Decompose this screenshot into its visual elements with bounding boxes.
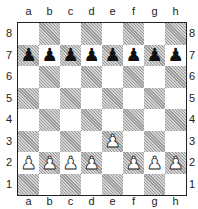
- square-h6[interactable]: [165, 66, 186, 88]
- black-pawn-icon[interactable]: ♟: [20, 46, 36, 64]
- square-d8[interactable]: [81, 23, 102, 45]
- square-f2[interactable]: ♟: [123, 152, 144, 174]
- black-pawn-icon[interactable]: ♟: [146, 46, 162, 64]
- rank-label-8: 8: [3, 23, 15, 45]
- square-g6[interactable]: [144, 66, 165, 88]
- square-b7[interactable]: ♟: [39, 45, 60, 67]
- file-label-a: a: [18, 5, 39, 17]
- square-b1[interactable]: [39, 174, 60, 196]
- square-a1[interactable]: [18, 174, 39, 196]
- square-d1[interactable]: [81, 174, 102, 196]
- square-c1[interactable]: [60, 174, 81, 196]
- square-a7[interactable]: ♟: [18, 45, 39, 67]
- white-pawn-icon[interactable]: ♟: [41, 154, 57, 172]
- square-g8[interactable]: [144, 23, 165, 45]
- rank-label-2: 2: [3, 152, 15, 174]
- black-pawn-icon[interactable]: ♟: [41, 46, 57, 64]
- square-g7[interactable]: ♟: [144, 45, 165, 67]
- square-b6[interactable]: [39, 66, 60, 88]
- square-b4[interactable]: [39, 109, 60, 131]
- square-g3[interactable]: [144, 131, 165, 153]
- square-e5[interactable]: [102, 88, 123, 110]
- square-b5[interactable]: [39, 88, 60, 110]
- square-h4[interactable]: [165, 109, 186, 131]
- file-label-e: e: [102, 5, 123, 17]
- square-f7[interactable]: ♟: [123, 45, 144, 67]
- square-b3[interactable]: [39, 131, 60, 153]
- square-b8[interactable]: [39, 23, 60, 45]
- rank-label-3: 3: [3, 131, 15, 153]
- square-g2[interactable]: ♟: [144, 152, 165, 174]
- square-d6[interactable]: [81, 66, 102, 88]
- rank-label-5: 5: [186, 88, 198, 110]
- square-g4[interactable]: [144, 109, 165, 131]
- black-pawn-icon[interactable]: ♟: [62, 46, 78, 64]
- white-pawn-icon[interactable]: ♟: [83, 154, 99, 172]
- file-label-g: g: [144, 195, 165, 207]
- square-c8[interactable]: [60, 23, 81, 45]
- white-pawn-icon[interactable]: ♟: [167, 154, 183, 172]
- square-h7[interactable]: ♟: [165, 45, 186, 67]
- square-c2[interactable]: ♟: [60, 152, 81, 174]
- square-e6[interactable]: [102, 66, 123, 88]
- file-label-a: a: [18, 195, 39, 207]
- square-d4[interactable]: [81, 109, 102, 131]
- square-f8[interactable]: [123, 23, 144, 45]
- square-a5[interactable]: [18, 88, 39, 110]
- rank-label-3: 3: [186, 131, 198, 153]
- file-label-f: f: [123, 5, 144, 17]
- square-e1[interactable]: [102, 174, 123, 196]
- rank-label-2: 2: [186, 152, 198, 174]
- chess-board: ♟♟♟♟♟♟♟♟♟♟♟♟♟♟♟♟: [17, 22, 187, 196]
- rank-label-6: 6: [186, 66, 198, 88]
- rank-label-5: 5: [3, 88, 15, 110]
- square-h3[interactable]: [165, 131, 186, 153]
- square-e8[interactable]: [102, 23, 123, 45]
- file-label-h: h: [165, 5, 186, 17]
- square-c4[interactable]: [60, 109, 81, 131]
- square-f1[interactable]: [123, 174, 144, 196]
- white-pawn-icon[interactable]: ♟: [146, 154, 162, 172]
- square-a4[interactable]: [18, 109, 39, 131]
- square-g5[interactable]: [144, 88, 165, 110]
- white-pawn-icon[interactable]: ♟: [20, 154, 36, 172]
- square-f5[interactable]: [123, 88, 144, 110]
- black-pawn-icon[interactable]: ♟: [83, 46, 99, 64]
- square-e3[interactable]: ♟: [102, 131, 123, 153]
- rank-label-1: 1: [3, 174, 15, 196]
- square-e7[interactable]: ♟: [102, 45, 123, 67]
- square-f3[interactable]: [123, 131, 144, 153]
- black-pawn-icon[interactable]: ♟: [125, 46, 141, 64]
- square-d2[interactable]: ♟: [81, 152, 102, 174]
- square-e2[interactable]: [102, 152, 123, 174]
- square-a6[interactable]: [18, 66, 39, 88]
- file-label-g: g: [144, 5, 165, 17]
- white-pawn-icon[interactable]: ♟: [125, 154, 141, 172]
- square-a2[interactable]: ♟: [18, 152, 39, 174]
- square-b2[interactable]: ♟: [39, 152, 60, 174]
- square-h1[interactable]: [165, 174, 186, 196]
- file-label-e: e: [102, 195, 123, 207]
- white-pawn-icon[interactable]: ♟: [104, 132, 120, 150]
- square-h8[interactable]: [165, 23, 186, 45]
- square-c6[interactable]: [60, 66, 81, 88]
- black-pawn-icon[interactable]: ♟: [104, 46, 120, 64]
- black-pawn-icon[interactable]: ♟: [167, 46, 183, 64]
- white-pawn-icon[interactable]: ♟: [62, 154, 78, 172]
- square-d5[interactable]: [81, 88, 102, 110]
- square-c5[interactable]: [60, 88, 81, 110]
- square-c7[interactable]: ♟: [60, 45, 81, 67]
- square-e4[interactable]: [102, 109, 123, 131]
- square-a3[interactable]: [18, 131, 39, 153]
- square-d3[interactable]: [81, 131, 102, 153]
- square-f4[interactable]: [123, 109, 144, 131]
- square-f6[interactable]: [123, 66, 144, 88]
- square-g1[interactable]: [144, 174, 165, 196]
- square-c3[interactable]: [60, 131, 81, 153]
- rank-label-4: 4: [186, 109, 198, 131]
- rank-label-4: 4: [3, 109, 15, 131]
- square-a8[interactable]: [18, 23, 39, 45]
- square-h2[interactable]: ♟: [165, 152, 186, 174]
- square-d7[interactable]: ♟: [81, 45, 102, 67]
- square-h5[interactable]: [165, 88, 186, 110]
